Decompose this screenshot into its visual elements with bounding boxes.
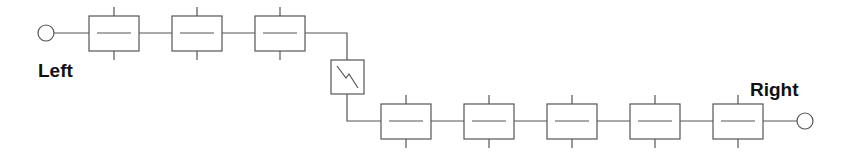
block-bottom-5 xyxy=(713,95,763,148)
block-top-3 xyxy=(255,7,305,60)
series-chain-diagram xyxy=(0,0,853,154)
block-top-2 xyxy=(172,7,222,60)
block-top-1 xyxy=(89,7,139,60)
lightning-switch-icon xyxy=(337,66,358,88)
switch-block xyxy=(331,60,364,94)
block-bottom-2 xyxy=(464,95,514,148)
right-label: Right xyxy=(750,79,799,101)
left-terminal-circle xyxy=(38,25,54,41)
block-bottom-3 xyxy=(547,95,597,148)
right-terminal-circle xyxy=(797,113,813,129)
wire xyxy=(305,33,347,60)
wire xyxy=(347,94,381,121)
block-bottom-4 xyxy=(630,95,680,148)
left-label: Left xyxy=(38,60,73,82)
block-bottom-1 xyxy=(381,95,431,148)
